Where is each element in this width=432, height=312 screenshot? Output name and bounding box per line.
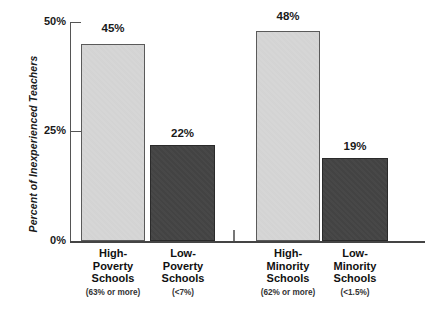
bar-value-low-poverty: 22%: [150, 127, 215, 139]
category-line-3: Schools: [311, 272, 399, 285]
group-separator-tick: [233, 230, 235, 241]
y-tick-label-50: 50%: [22, 15, 66, 27]
y-tick-mark-50: [70, 22, 81, 23]
category-line-1: Low-: [311, 247, 399, 260]
bar-low-poverty: [150, 145, 215, 241]
y-tick-label-25: 25%: [22, 124, 66, 136]
bar-value-low-minority: 19%: [322, 140, 388, 152]
bar-high-minority: [256, 31, 320, 241]
bar-value-high-poverty: 45%: [81, 22, 145, 34]
y-axis-label: Percent of Inexperienced Teachers: [27, 49, 39, 239]
category-line-2: Minority: [311, 260, 399, 273]
category-line-1: Low-: [139, 247, 227, 260]
bar-low-minority: [322, 158, 388, 241]
y-tick-mark-25: [70, 131, 81, 132]
category-label-low-poverty: Low- Poverty Schools (<7%): [139, 247, 227, 299]
category-label-low-minority: Low- Minority Schools (<1.5%): [311, 247, 399, 299]
category-line-3: Schools: [139, 272, 227, 285]
x-axis-line: [70, 241, 425, 243]
bar-high-poverty: [81, 44, 145, 241]
bar-value-high-minority: 48%: [256, 10, 320, 22]
category-line-2: Poverty: [139, 260, 227, 273]
bar-chart: Percent of Inexperienced Teachers 50% 25…: [0, 0, 432, 312]
category-sublabel: (<1.5%): [311, 287, 399, 300]
category-sublabel: (<7%): [139, 287, 227, 300]
y-tick-label-0: 0%: [22, 234, 66, 246]
